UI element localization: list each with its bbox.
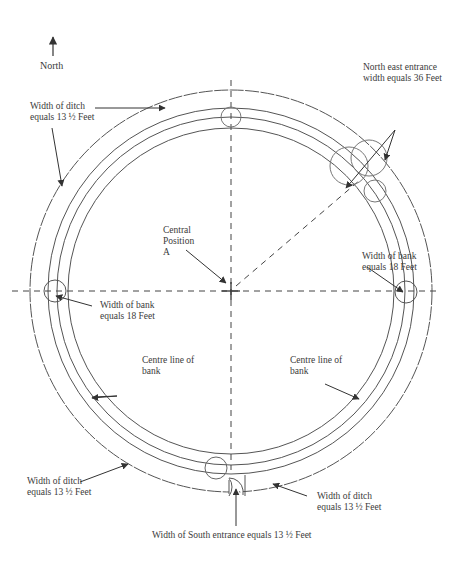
ditch-bottom-left-label: Width of ditch equals 13 ½ Feet	[27, 476, 91, 498]
label-line: Width of bank	[100, 300, 155, 311]
label-line: width equals 36 Feet	[363, 73, 442, 84]
centre-line-right-label: Centre line of bank	[290, 355, 342, 377]
label-line: equals 13 ½ Feet	[27, 487, 91, 498]
ne-entrance-label: North east entrance width equals 36 Feet	[363, 62, 442, 84]
label-line: Width of ditch	[317, 491, 381, 502]
label-line: Width of ditch	[30, 101, 94, 112]
ne-axis	[236, 180, 360, 286]
label-line: equals 18 Feet	[100, 311, 155, 322]
label-line: North east entrance	[363, 62, 442, 73]
central-position-label: Central Position A	[163, 225, 194, 258]
label-line: equals 18 Feet	[362, 262, 417, 273]
north-label: North	[40, 60, 63, 71]
label-line: bank	[290, 366, 342, 377]
centre-line-left-label: Centre line of bank	[142, 355, 194, 377]
label-line: Width of ditch	[27, 476, 91, 487]
label-line: Position	[163, 236, 194, 247]
label-line: bank	[142, 366, 194, 377]
ditch-bottom-right-label: Width of ditch equals 13 ½ Feet	[317, 491, 381, 513]
label-line: Centre line of	[142, 355, 194, 366]
ditch-top-left-label: Width of ditch equals 13 ½ Feet	[30, 101, 94, 123]
bank-left-label: Width of bank equals 18 Feet	[100, 300, 155, 322]
south-entrance-label: Width of South entrance equals 13 ½ Feet	[152, 530, 312, 541]
bank-right-label: Width of bank equals 18 Feet	[362, 251, 417, 273]
label-line: Width of bank	[362, 251, 417, 262]
label-line: equals 13 ½ Feet	[317, 502, 381, 513]
axis-lines	[12, 80, 438, 470]
south-bank-circle	[205, 457, 227, 479]
label-line: A	[163, 247, 194, 258]
label-line: equals 13 ½ Feet	[30, 112, 94, 123]
label-line: Central	[163, 225, 194, 236]
label-line: Centre line of	[290, 355, 342, 366]
